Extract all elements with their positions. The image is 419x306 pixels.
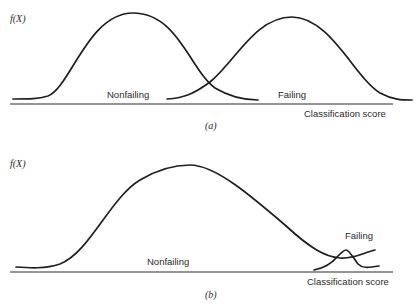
- panel-b-caption: (b): [205, 289, 217, 301]
- panel-b-nonfailing-curve: [16, 165, 375, 268]
- panel-b-failing-label: Failing: [345, 230, 373, 241]
- panel-a-nonfailing-curve: [13, 13, 258, 100]
- panel-a-ylabel: f(X): [10, 13, 26, 25]
- panel-a: f(X) Nonfailing Failing Classification s…: [10, 13, 412, 132]
- panel-a-nonfailing-label: Nonfailing: [107, 89, 149, 100]
- panel-b-ylabel: f(X): [10, 158, 26, 170]
- panel-b-xlabel: Classification score: [307, 276, 389, 287]
- panel-b: f(X) Nonfailing Failing Classification s…: [10, 158, 393, 301]
- panel-a-failing-label: Failing: [278, 89, 306, 100]
- panel-b-nonfailing-label: Nonfailing: [147, 256, 189, 267]
- panel-a-xlabel: Classification score: [304, 108, 386, 119]
- panel-a-caption: (a): [205, 120, 217, 132]
- classification-score-diagram: f(X) Nonfailing Failing Classification s…: [0, 0, 419, 306]
- panel-a-failing-curve: [167, 17, 412, 100]
